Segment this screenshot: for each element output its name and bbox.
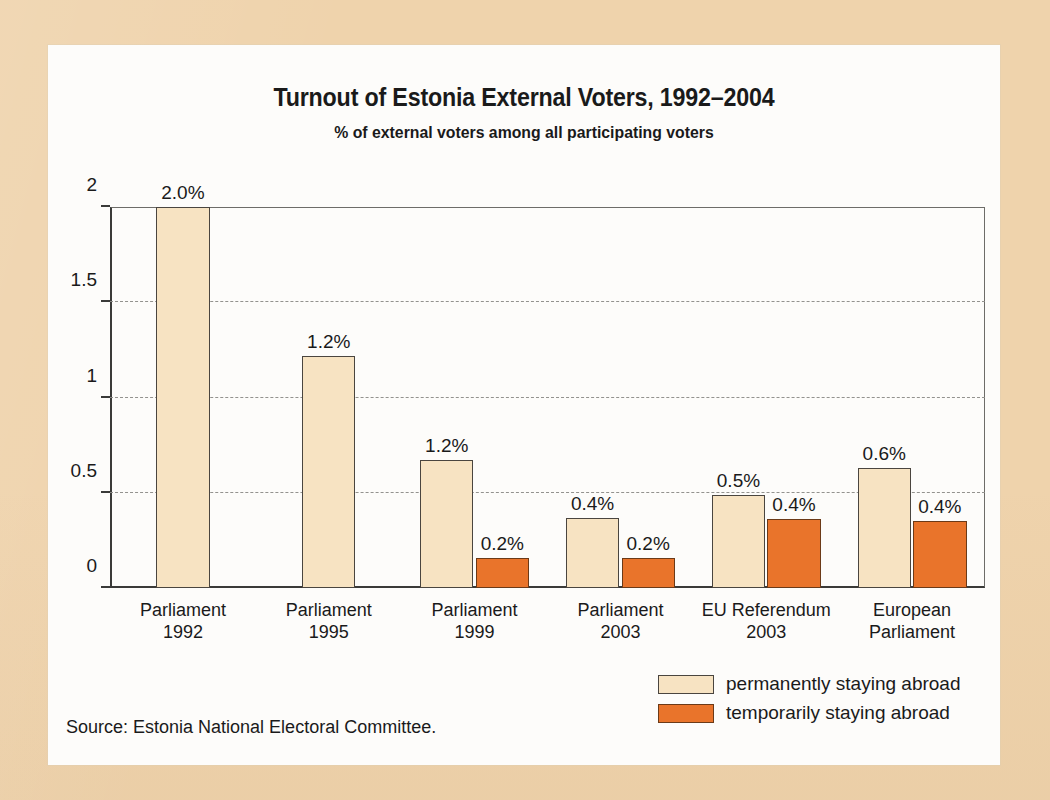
- legend-swatch-permanent-icon: [658, 675, 714, 694]
- x-axis-category-label: Parliament1999: [432, 599, 518, 644]
- bar-temporary[interactable]: 0.2%: [622, 558, 675, 588]
- x-axis-category-line: Parliament: [286, 599, 372, 621]
- bar-group: 0.6%0.4%EuropeanParliament: [839, 207, 985, 588]
- x-axis-category-line: Parliament: [869, 621, 955, 643]
- x-axis-category-line: Parliament: [577, 599, 663, 621]
- bar-permanent[interactable]: 0.6%: [858, 468, 911, 588]
- bar-value-label: 1.2%: [425, 435, 468, 457]
- bar-group: 1.2%Parliament1995: [256, 207, 402, 588]
- bar-value-label: 0.4%: [772, 494, 815, 516]
- x-axis-category-label: EuropeanParliament: [869, 599, 955, 644]
- y-tick-mark: [101, 205, 110, 207]
- plot-area: 00.511.52 2.0%Parliament19921.2%Parliame…: [110, 207, 985, 588]
- bar-temporary[interactable]: 0.4%: [767, 519, 820, 588]
- y-tick-label: 2: [86, 174, 97, 196]
- bar-permanent[interactable]: 2.0%: [156, 207, 209, 588]
- legend-swatch-temporary-icon: [658, 704, 714, 723]
- y-tick-mark: [101, 396, 110, 398]
- x-axis-category-line: 1992: [140, 621, 226, 643]
- x-axis-category-line: 1999: [432, 621, 518, 643]
- bar-value-label: 0.4%: [918, 496, 961, 518]
- bar-permanent[interactable]: 1.2%: [420, 460, 473, 588]
- bar-permanent[interactable]: 1.2%: [302, 356, 355, 588]
- chart-subtitle: % of external voters among all participa…: [81, 123, 966, 143]
- bar-value-label: 0.5%: [717, 470, 760, 492]
- legend-item-temporary[interactable]: temporarily staying abroad: [658, 702, 960, 724]
- legend-label-temporary: temporarily staying abroad: [726, 702, 950, 724]
- bar-value-label: 0.6%: [863, 443, 906, 465]
- y-tick-label: 1: [86, 365, 97, 387]
- legend: permanently staying abroad temporarily s…: [658, 673, 960, 731]
- y-tick-mark: [101, 586, 110, 588]
- y-tick-label: 1.5: [71, 269, 97, 291]
- bar-value-label: 0.2%: [627, 533, 670, 555]
- bar-value-label: 1.2%: [307, 331, 350, 353]
- legend-label-permanent: permanently staying abroad: [726, 673, 960, 695]
- bar-group: 0.5%0.4%EU Referendum2003: [693, 207, 839, 588]
- y-tick-label: 0.5: [71, 460, 97, 482]
- legend-item-permanent[interactable]: permanently staying abroad: [658, 673, 960, 695]
- bar-permanent[interactable]: 0.5%: [712, 495, 765, 588]
- bar-group: 2.0%Parliament1992: [110, 207, 256, 588]
- x-axis-category-label: Parliament1992: [140, 599, 226, 644]
- chart-title: Turnout of Estonia External Voters, 1992…: [81, 83, 966, 112]
- bar-group: 1.2%0.2%Parliament1999: [402, 207, 548, 588]
- x-axis-category-line: 1995: [286, 621, 372, 643]
- x-axis-category-label: EU Referendum2003: [702, 599, 831, 644]
- x-axis-category-line: European: [869, 599, 955, 621]
- x-axis-category-line: Parliament: [140, 599, 226, 621]
- y-tick-mark: [101, 300, 110, 302]
- x-axis-category-label: Parliament1995: [286, 599, 372, 644]
- bar-value-label: 0.4%: [571, 493, 614, 515]
- source-note: Source: Estonia National Electoral Commi…: [66, 717, 436, 738]
- bar-permanent[interactable]: 0.4%: [566, 518, 619, 588]
- bar-value-label: 0.2%: [481, 533, 524, 555]
- x-axis-category-line: 2003: [577, 621, 663, 643]
- y-tick-label: 0: [86, 555, 97, 577]
- bar-group: 0.4%0.2%Parliament2003: [548, 207, 694, 588]
- chart-card: Turnout of Estonia External Voters, 1992…: [48, 45, 1000, 765]
- bar-temporary[interactable]: 0.2%: [476, 558, 529, 588]
- x-axis-category-label: Parliament2003: [577, 599, 663, 644]
- y-tick-mark: [101, 491, 110, 493]
- bar-value-label: 2.0%: [161, 182, 204, 204]
- x-axis-category-line: Parliament: [432, 599, 518, 621]
- x-axis-category-line: EU Referendum: [702, 599, 831, 621]
- x-axis-category-line: 2003: [702, 621, 831, 643]
- bar-temporary[interactable]: 0.4%: [913, 521, 966, 588]
